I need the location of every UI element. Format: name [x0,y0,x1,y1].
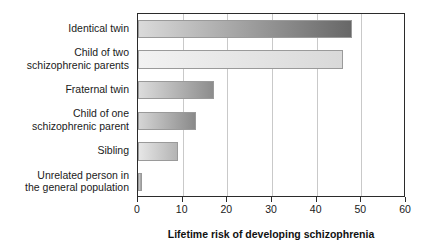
chart-figure: Identical twinChild of two schizophrenic… [0,0,426,252]
bar [138,20,352,39]
x-axis-tick [405,197,406,202]
gridline [317,14,318,196]
category-label: Unrelated person in the general populati… [25,169,129,194]
x-axis-title: Lifetime risk of developing schizophreni… [137,228,405,240]
x-axis-tick [316,197,317,202]
gridline [227,14,228,196]
gridline [272,14,273,196]
x-axis-tick-label: 40 [301,203,331,215]
x-axis-tick-label: 20 [211,203,241,215]
category-label: Fraternal twin [65,83,129,96]
category-label: Sibling [97,144,129,157]
bar [138,173,142,192]
x-axis-tick-label: 10 [167,203,197,215]
bar [138,142,178,161]
category-label: Identical twin [68,22,129,35]
bar [138,81,214,100]
x-axis-tick-label: 0 [122,203,152,215]
category-label-column: Identical twinChild of two schizophrenic… [0,13,133,197]
x-axis-tick [271,197,272,202]
x-axis-tick [226,197,227,202]
category-label: Child of one schizophrenic parent [32,107,129,132]
bar [138,50,343,69]
x-axis-tick-label: 30 [256,203,286,215]
x-axis-tick-label: 50 [345,203,375,215]
plot-inner [138,14,404,196]
plot-area [137,13,405,197]
gridline [183,14,184,196]
x-axis-tick [182,197,183,202]
x-axis-tick-label: 60 [390,203,420,215]
x-axis-tick [360,197,361,202]
gridline [361,14,362,196]
bar [138,112,196,131]
category-label: Child of two schizophrenic parents [27,46,129,71]
x-axis-tick [137,197,138,202]
